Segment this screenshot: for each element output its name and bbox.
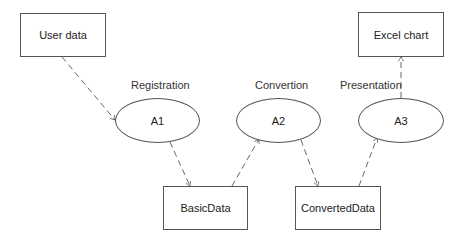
- process-caption-registration: Registration: [131, 79, 190, 91]
- process-a1: A1: [115, 98, 200, 143]
- edge-userdata-a1: [62, 57, 115, 120]
- process-caption-convertion: Convertion: [255, 79, 308, 91]
- entity-label: BasicData: [180, 202, 230, 214]
- entity-converted-data: ConvertedData: [295, 186, 381, 230]
- edge-a2-converteddata: [301, 140, 318, 186]
- edge-converteddata-a3: [359, 138, 377, 186]
- entity-excel-chart: Excel chart: [358, 12, 444, 57]
- entity-label: User data: [39, 29, 87, 41]
- process-a3: A3: [358, 98, 444, 143]
- process-a2: A2: [236, 98, 321, 143]
- process-caption-presentation: Presentation: [340, 79, 402, 91]
- entity-user-data: User data: [20, 13, 106, 57]
- entity-basic-data: BasicData: [163, 186, 248, 230]
- process-label: A2: [272, 115, 285, 127]
- process-label: A3: [394, 115, 407, 127]
- data-flow-diagram: User data Excel chart BasicData Converte…: [0, 0, 458, 243]
- process-label: A1: [151, 115, 164, 127]
- edge-a1-basicdata: [170, 142, 190, 186]
- edge-basicdata-a2: [232, 139, 259, 186]
- entity-label: Excel chart: [374, 29, 428, 41]
- entity-label: ConvertedData: [301, 202, 375, 214]
